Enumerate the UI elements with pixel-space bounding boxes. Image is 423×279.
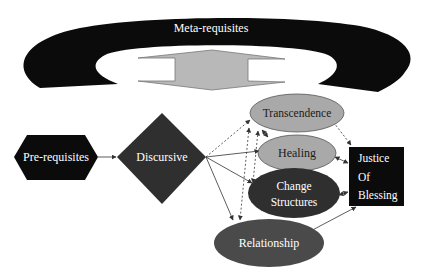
double-arrow-icon	[138, 50, 285, 90]
justice-label-line2: Of	[358, 171, 370, 183]
relationship-label: Relationship	[239, 236, 300, 250]
justice-label-line1: Justice	[358, 152, 389, 164]
discursive-label: Discursive	[136, 150, 187, 164]
prerequisites-label: Pre-requisites	[23, 150, 89, 164]
justice-label-line3: Blessing	[358, 189, 398, 202]
meta-requisites-label: Meta-requisites	[174, 21, 249, 35]
discursive-node: Discursive	[117, 113, 206, 204]
healing-node: Healing	[258, 135, 336, 171]
relationship-node: Relationship	[214, 219, 324, 267]
diagram-canvas: Meta-requisites Pre-requisites	[0, 0, 423, 279]
transcendence-label: Transcendence	[263, 107, 332, 119]
change-structures-label-line2: Structures	[271, 196, 318, 208]
change-structures-label-line1: Change	[276, 180, 311, 193]
justice-of-blessing-node: Justice Of Blessing	[349, 147, 404, 206]
healing-label: Healing	[278, 146, 316, 160]
change-structures-node: Change Structures	[248, 168, 340, 218]
prerequisites-node: Pre-requisites	[14, 135, 98, 180]
transcendence-node: Transcendence	[250, 94, 344, 132]
